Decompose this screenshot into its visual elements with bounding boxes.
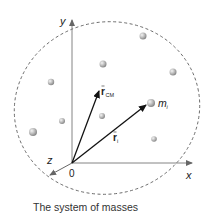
- z-axis-label: z: [46, 154, 53, 166]
- mass-sphere: [59, 118, 65, 124]
- mass-sphere: [100, 61, 107, 68]
- mass-sphere: [29, 128, 37, 136]
- system-of-masses-diagram: y x z 0 r CM r i m i The system of masse…: [0, 0, 206, 217]
- mass-subscript: i: [167, 104, 169, 110]
- mass-sphere: [151, 136, 157, 142]
- mass-sphere: [48, 79, 54, 85]
- y-axis-label: y: [59, 15, 67, 27]
- mass-sphere-mi: [147, 99, 155, 107]
- system-boundary: [0, 5, 206, 212]
- mass-mi-label: m i: [158, 97, 169, 110]
- mass-sphere: [140, 33, 147, 40]
- r-cm-label: r CM: [101, 86, 114, 98]
- mass-sphere: [99, 113, 105, 119]
- mass-sphere: [170, 69, 177, 76]
- diagram-caption: The system of masses: [33, 201, 138, 213]
- x-axis-label: x: [185, 169, 192, 181]
- r-i-subscript: i: [117, 138, 118, 144]
- r-cm-subscript: CM: [106, 92, 115, 98]
- r-cm-symbol: r: [101, 86, 105, 97]
- r-i-label: r i: [113, 132, 118, 144]
- origin-label: 0: [69, 168, 75, 179]
